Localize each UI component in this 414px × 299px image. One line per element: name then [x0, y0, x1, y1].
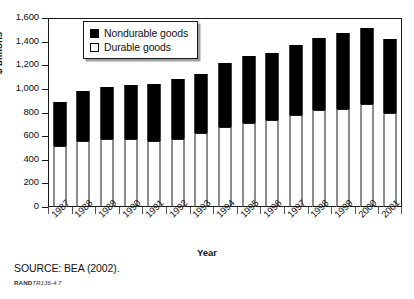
bar-segment-durable — [336, 109, 349, 207]
bar-slot — [237, 18, 261, 207]
bar-slot — [48, 18, 72, 207]
bar-segment-nondurable — [171, 79, 184, 138]
bar-segment-durable — [242, 123, 255, 207]
bar-slot — [284, 18, 308, 207]
bar-segment-durable — [195, 133, 208, 207]
bar-segment-nondurable — [336, 33, 349, 109]
bar-segment-durable — [266, 120, 279, 207]
bar-segment-nondurable — [289, 45, 302, 115]
bar-slot — [331, 18, 355, 207]
bar-segment-nondurable — [360, 28, 373, 104]
figure-id-prefix: RAND — [14, 279, 32, 286]
y-axis-tick-label: 1,600 — [16, 11, 39, 22]
legend-item-durable: Durable goods — [90, 40, 188, 54]
bar-segment-nondurable — [100, 87, 113, 139]
bar-segment-nondurable — [218, 63, 231, 127]
stacked-bar[interactable] — [124, 85, 137, 207]
bar-segment-nondurable — [148, 84, 161, 141]
stacked-bar[interactable] — [289, 45, 302, 207]
figure-container: $ billions 02004006008001,0001,2001,4001… — [0, 0, 414, 299]
bar-segment-durable — [289, 115, 302, 207]
bar-slot — [308, 18, 332, 207]
y-axis-tick-label: 400 — [23, 153, 39, 164]
stacked-bar[interactable] — [384, 39, 397, 207]
source-note: SOURCE: BEA (2002). — [14, 262, 119, 274]
y-axis-tick-label: 800 — [23, 106, 39, 117]
bar-slot — [260, 18, 284, 207]
y-axis-tick-label: 1,400 — [16, 35, 39, 46]
y-axis-ticks: 02004006008001,0001,2001,4001,600 — [0, 18, 48, 207]
figure-id: RANDTR136-4.7 — [14, 279, 62, 286]
stacked-bar[interactable] — [242, 56, 255, 207]
stacked-bar[interactable] — [171, 79, 184, 207]
stacked-bar[interactable] — [100, 87, 113, 207]
bar-segment-nondurable — [242, 56, 255, 123]
bar-segment-nondurable — [266, 53, 279, 120]
bar-segment-durable — [218, 127, 231, 207]
bar-segment-nondurable — [195, 74, 208, 134]
y-axis-tick-label: 0 — [34, 200, 39, 211]
chart-legend: Nondurable goods Durable goods — [83, 21, 198, 59]
bar-segment-durable — [313, 110, 326, 207]
bar-slot — [355, 18, 379, 207]
legend-label-durable: Durable goods — [104, 41, 171, 53]
bar-slot — [378, 18, 402, 207]
y-axis-tick-label: 200 — [23, 176, 39, 187]
bar-slot — [213, 18, 237, 207]
legend-swatch-black-icon — [90, 29, 99, 38]
bar-segment-nondurable — [77, 91, 90, 141]
stacked-bar[interactable] — [218, 63, 231, 207]
bar-segment-nondurable — [53, 102, 66, 146]
stacked-bar[interactable] — [336, 33, 349, 207]
bar-segment-durable — [360, 104, 373, 207]
x-axis-title: Year — [0, 247, 414, 258]
y-axis-tick-label: 1,200 — [16, 58, 39, 69]
x-axis-labels: 1987198819891990199119921993199419951996… — [48, 209, 402, 247]
legend-item-nondurable: Nondurable goods — [90, 26, 188, 40]
stacked-bar[interactable] — [148, 84, 161, 207]
legend-swatch-white-icon — [90, 43, 99, 52]
bar-segment-nondurable — [384, 39, 397, 112]
figure-id-number: TR136-4.7 — [32, 279, 61, 286]
bar-segment-durable — [384, 113, 397, 208]
y-axis-tick-label: 600 — [23, 129, 39, 140]
y-axis-tick-label: 1,000 — [16, 82, 39, 93]
bar-segment-nondurable — [313, 38, 326, 110]
stacked-bar[interactable] — [266, 53, 279, 207]
legend-label-nondurable: Nondurable goods — [104, 27, 188, 39]
stacked-bar[interactable] — [360, 28, 373, 207]
stacked-bar[interactable] — [77, 91, 90, 207]
stacked-bar[interactable] — [53, 102, 66, 207]
stacked-bar[interactable] — [195, 74, 208, 207]
bar-segment-nondurable — [124, 85, 137, 139]
stacked-bar[interactable] — [313, 38, 326, 207]
